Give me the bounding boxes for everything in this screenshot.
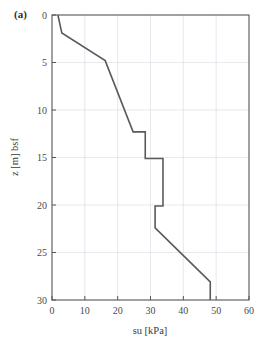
x-axis-title: su [kPa]	[133, 325, 168, 336]
x-axis-ticks	[52, 296, 249, 300]
x-tick-label: 40	[178, 305, 188, 316]
y-tick-label: 0	[42, 10, 47, 21]
grid-lines	[52, 15, 249, 300]
y-axis-ticks	[52, 15, 56, 300]
x-tick-label: 30	[146, 305, 156, 316]
x-tick-label: 10	[80, 305, 90, 316]
x-tick-label: 20	[113, 305, 123, 316]
figure-panel: (a) 0102030405060 051015202530 su [kPa] …	[0, 0, 270, 350]
y-tick-label: 25	[37, 247, 47, 258]
y-axis-tick-labels: 051015202530	[37, 10, 47, 306]
x-tick-label: 60	[244, 305, 254, 316]
chart-plot: 0102030405060 051015202530 su [kPa] z [m…	[0, 0, 270, 350]
y-tick-label: 30	[37, 295, 47, 306]
x-tick-label: 50	[211, 305, 221, 316]
x-axis-tick-labels: 0102030405060	[50, 305, 255, 316]
y-tick-label: 20	[37, 200, 47, 211]
x-tick-label: 0	[50, 305, 55, 316]
y-tick-label: 15	[37, 152, 47, 163]
y-tick-label: 5	[42, 57, 47, 68]
y-axis-title: z [m] bsf	[9, 138, 20, 176]
y-tick-label: 10	[37, 105, 47, 116]
